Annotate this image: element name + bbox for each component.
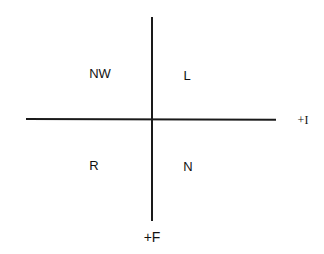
quadrant-label-top-right: L — [183, 69, 190, 82]
vertical-axis-label: +F — [144, 230, 161, 244]
quadrant-label-bottom-right: N — [183, 160, 192, 173]
quadrant-label-top-left: NW — [89, 67, 111, 80]
horizontal-axis-label: +I — [298, 114, 309, 126]
quadrant-label-bottom-left: R — [89, 159, 98, 172]
